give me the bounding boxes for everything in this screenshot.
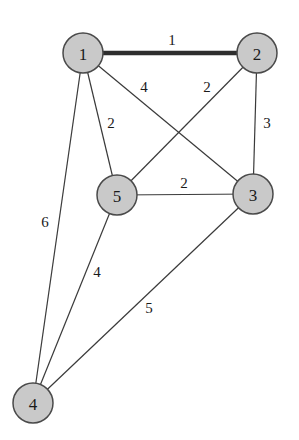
graph-diagram: 142623245 12345 xyxy=(0,0,299,440)
edge-weight-label-3-4: 5 xyxy=(145,300,153,316)
node-4: 4 xyxy=(13,383,53,423)
node-label: 2 xyxy=(253,45,262,64)
edge-weight-label-2-3: 3 xyxy=(263,115,271,131)
edge-weight-label-1-4: 6 xyxy=(41,214,49,230)
edge-weight-label-5-4: 4 xyxy=(93,264,101,280)
node-label: 5 xyxy=(113,187,122,206)
node-label: 3 xyxy=(249,186,258,205)
edge-weight-label-1-3: 4 xyxy=(140,79,148,95)
node-label: 4 xyxy=(29,395,38,414)
edges-layer xyxy=(33,53,257,403)
node-3: 3 xyxy=(233,174,273,214)
edge-3-4 xyxy=(33,194,253,403)
edge-weight-label-2-5: 2 xyxy=(203,79,211,95)
edge-weight-label-1-2: 1 xyxy=(168,32,176,48)
edge-2-5 xyxy=(117,53,257,195)
edge-2-3 xyxy=(253,53,257,194)
node-1: 1 xyxy=(63,33,103,73)
node-5: 5 xyxy=(97,175,137,215)
node-2: 2 xyxy=(237,33,277,73)
node-label: 1 xyxy=(79,45,88,64)
edge-weight-label-1-5: 2 xyxy=(107,115,115,131)
edge-weight-label-5-3: 2 xyxy=(180,175,188,191)
